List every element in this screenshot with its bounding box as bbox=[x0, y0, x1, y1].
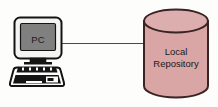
diagram-svg: PC bbox=[0, 0, 218, 107]
repository-label-line1: Local bbox=[165, 46, 188, 57]
keyboard-numpad-block bbox=[46, 77, 58, 83]
repository-label-line2: Repository bbox=[153, 58, 199, 69]
cylinder-top bbox=[144, 10, 208, 33]
node-local-repository[interactable]: Local Repository bbox=[144, 10, 208, 98]
keyboard-spacebar bbox=[26, 81, 42, 83]
monitor-stand-base bbox=[24, 62, 52, 65]
node-pc[interactable]: PC bbox=[10, 18, 64, 87]
monitor-stand-neck bbox=[30, 58, 46, 63]
pc-screen-label: PC bbox=[31, 34, 45, 45]
diagram-canvas: PC bbox=[0, 0, 218, 107]
